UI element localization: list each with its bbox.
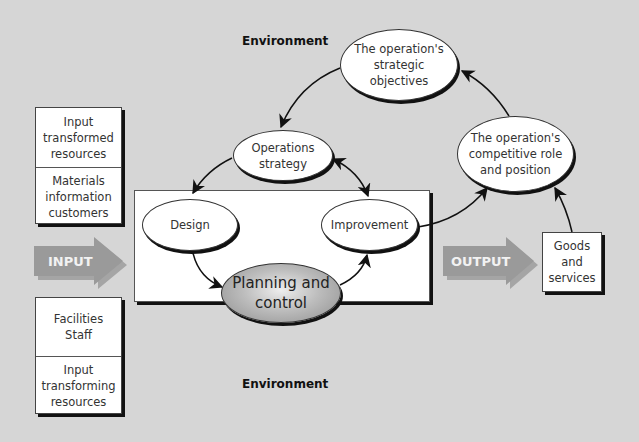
input-arrow-label: INPUT [48, 254, 93, 269]
input-transforming-resources-box: Facilities Staff Input transforming reso… [35, 297, 122, 414]
arrow-goods-to-competitive-icon [555, 188, 572, 232]
input-transforming-footer: Input transforming resources [36, 356, 121, 415]
goods-and-services-box: Goods and services [542, 232, 602, 292]
goods-and-services-label: Goods and services [543, 233, 601, 291]
input-transforming-items: Facilities Staff [36, 298, 121, 356]
node-planning-and-control: Planning and control [221, 263, 341, 323]
node-strategic-objectives: The operation's strategic objectives [340, 29, 458, 101]
arrow-strategy-to-design-icon [193, 158, 232, 193]
environment-label-bottom: Environment [242, 377, 328, 391]
input-transformed-resources-box: Input transformed resources Materials in… [35, 107, 122, 224]
node-improvement: Improvement [321, 199, 418, 251]
arrow-objectives-to-strategy-icon [281, 68, 340, 127]
environment-label-top: Environment [242, 34, 328, 48]
input-transformed-header: Input transformed resources [36, 108, 121, 167]
node-competitive-role: The operation's competitive role and pos… [457, 116, 574, 192]
node-design: Design [142, 199, 238, 251]
output-arrow-label: OUTPUT [451, 254, 510, 269]
input-transformed-items: Materials information customers [36, 167, 121, 225]
arrow-competitive-to-objectives-icon [462, 71, 509, 116]
node-operations-strategy: Operations strategy [233, 130, 333, 181]
